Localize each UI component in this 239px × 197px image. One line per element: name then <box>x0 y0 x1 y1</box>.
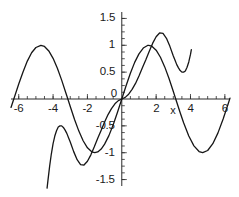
y-tick-label-minus0p5: -0.5 <box>96 120 115 132</box>
x-tick-label-minus6: -6 <box>14 103 24 115</box>
x-tick-label-minus2: -2 <box>82 103 92 115</box>
x-tick-label-2: 2 <box>153 103 159 115</box>
y-tick-label-1: 1 <box>109 39 115 51</box>
y-tick-label-1p5: 1.5 <box>100 12 115 24</box>
x-axis-title: x <box>170 105 176 116</box>
y-tick-label-0p5: 0.5 <box>100 66 115 78</box>
plot-canvas <box>0 0 239 197</box>
x-tick-label-zero: 0 <box>111 88 117 100</box>
x-tick-label-6: 6 <box>222 103 228 115</box>
y-tick-label-minus1p5: -1.5 <box>96 174 115 186</box>
x-tick-label-minus4: -4 <box>48 103 58 115</box>
x-tick-label-4: 4 <box>187 103 193 115</box>
y-tick-label-minus1: -1 <box>105 147 115 159</box>
plot-figure: -6 -4 -2 0 2 4 6 1.5 1 0.5 -0.5 -1 -1.5 … <box>0 0 239 197</box>
data-curves-group <box>11 33 230 188</box>
